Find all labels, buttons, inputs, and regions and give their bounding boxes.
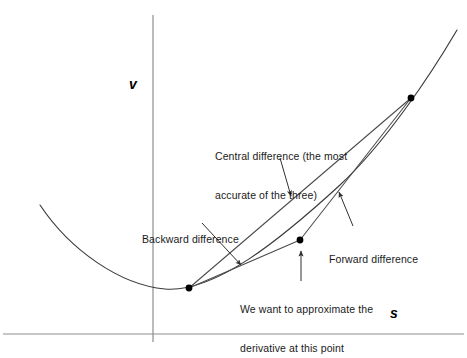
central-difference-label-line2: accurate of the three) [215,189,347,202]
left-point-marker [186,285,193,292]
x-axis-label: s [390,305,398,321]
approximate-derivative-label-line2: derivative at this point [240,342,373,355]
backward-difference-label-line1: Backward difference [142,233,239,246]
backward-difference-label: Backward difference [142,207,239,272]
y-axis-label: v [129,76,137,92]
right-point-marker [408,95,415,102]
forward-difference-label-line1: Forward difference [329,253,418,266]
center-point-marker [297,237,304,244]
approximate-derivative-label-line1: We want to approximate the [240,303,373,316]
approximate-derivative-label: We want to approximate the derivative at… [240,277,373,358]
central-difference-label-line1: Central difference (the most [215,150,347,163]
